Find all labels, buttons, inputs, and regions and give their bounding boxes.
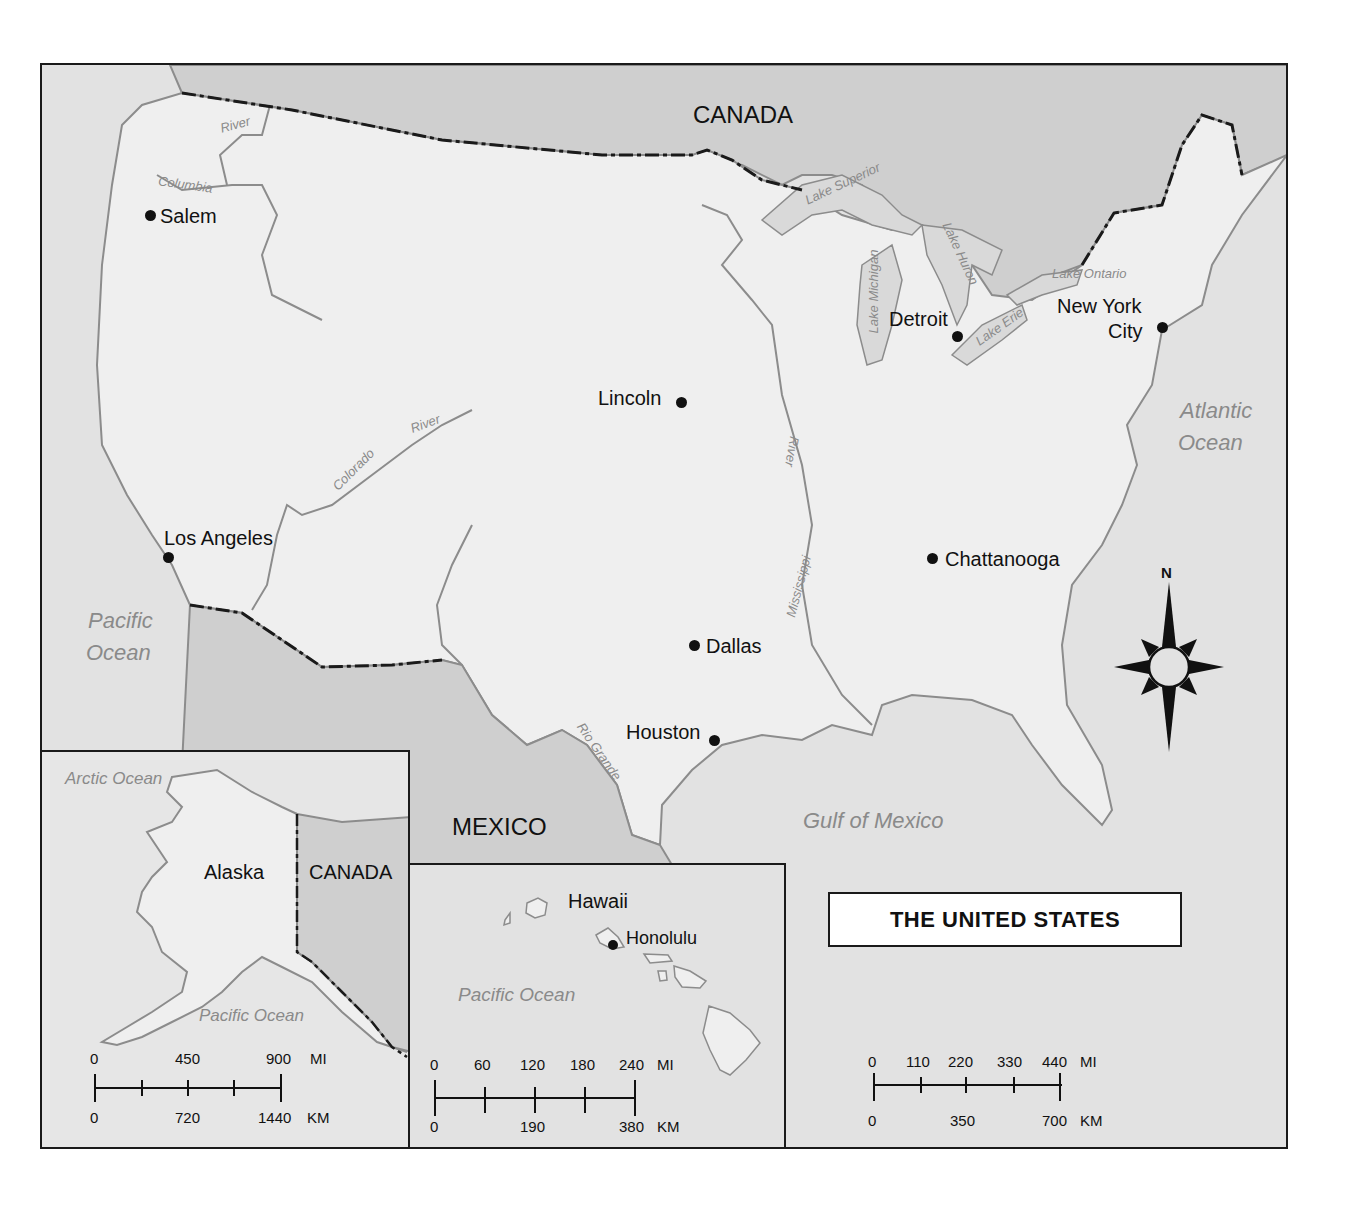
hawaii-scale-km-unit: KM: [657, 1118, 680, 1135]
main-scale-km-1: 350: [950, 1112, 975, 1129]
main-scale-bar: [874, 1073, 1062, 1101]
city-dot-chattanooga: [927, 553, 938, 564]
city-dot-dallas: [689, 640, 700, 651]
map-title: THE UNITED STATES: [828, 892, 1182, 947]
main-scale-km-unit: KM: [1080, 1112, 1103, 1129]
alaska-scale-km-2: 1440: [258, 1109, 291, 1126]
hawaii-scale-mi-0: 0: [430, 1056, 438, 1073]
main-scale-mi-unit: MI: [1080, 1053, 1097, 1070]
city-new-york-line1: New York: [1057, 296, 1142, 316]
city-houston: Houston: [626, 722, 701, 742]
city-detroit: Detroit: [889, 309, 948, 329]
hawaii-kauai: [526, 898, 547, 918]
hawaii-scale-mi-1: 60: [474, 1056, 491, 1073]
hawaii-scale-km-1: 190: [520, 1118, 545, 1135]
alaska-scale-mi-2: 900: [266, 1050, 291, 1067]
label-mexico: MEXICO: [452, 815, 547, 839]
city-los-angeles: Los Angeles: [164, 528, 273, 548]
label-arctic-ocean: Arctic Ocean: [65, 770, 162, 787]
city-dot-new-york-city: [1157, 322, 1168, 333]
alaska-scale-mi-1: 450: [175, 1050, 200, 1067]
label-alaska: Alaska: [204, 862, 264, 882]
alaska-scale-mi-0: 0: [90, 1050, 98, 1067]
hawaii-maui: [674, 966, 706, 988]
hawaii-scale-mi-3: 180: [570, 1056, 595, 1073]
compass-rose: [1114, 582, 1224, 752]
main-scale-mi-3: 330: [997, 1053, 1022, 1070]
compass-north-label: N: [1161, 565, 1172, 580]
label-atlantic-1: Atlantic: [1180, 400, 1252, 422]
label-pacific-2: Ocean: [86, 642, 151, 664]
main-scale-mi-2: 220: [948, 1053, 973, 1070]
map-frame: CANADA MEXICO Pacific Ocean Atlantic Oce…: [40, 63, 1288, 1149]
alaska-inset: Arctic Ocean Alaska CANADA Pacific Ocean…: [40, 750, 410, 1149]
label-lake-michigan: Lake Michigan: [867, 250, 880, 334]
city-dot-honolulu: [608, 940, 618, 950]
alaska-scale-km-unit: KM: [307, 1109, 330, 1126]
city-dallas: Dallas: [706, 636, 762, 656]
label-lake-ontario: Lake Ontario: [1052, 267, 1126, 280]
city-honolulu: Honolulu: [626, 929, 697, 947]
hawaii-molokai: [644, 954, 672, 963]
hawaii-big-island: [703, 1006, 760, 1075]
alaska-scale-km-0: 0: [90, 1109, 98, 1126]
city-dot-lincoln: [676, 397, 687, 408]
label-atlantic-2: Ocean: [1178, 432, 1243, 454]
city-chattanooga: Chattanooga: [945, 549, 1060, 569]
label-alaska-canada: CANADA: [309, 862, 392, 882]
city-dot-houston: [709, 735, 720, 746]
city-dot-detroit: [952, 331, 963, 342]
city-new-york-line2: City: [1108, 321, 1142, 341]
label-hawaii-pacific-ocean: Pacific Ocean: [458, 985, 575, 1004]
hawaii-inset: Hawaii Honolulu Pacific Ocean 0 60 120 1…: [408, 863, 786, 1149]
label-pacific-1: Pacific: [88, 610, 153, 632]
label-canada: CANADA: [693, 103, 793, 127]
main-scale-mi-0: 0: [868, 1053, 876, 1070]
city-dot-los-angeles: [163, 552, 174, 563]
hawaii-lanai: [658, 971, 667, 981]
alaska-scale-km-1: 720: [175, 1109, 200, 1126]
city-dot-salem: [145, 210, 156, 221]
hawaii-scale-mi-unit: MI: [657, 1056, 674, 1073]
hawaii-scale-km-2: 380: [619, 1118, 644, 1135]
city-salem: Salem: [160, 206, 217, 226]
hawaii-niihau: [504, 913, 510, 925]
hawaii-scale-mi-2: 120: [520, 1056, 545, 1073]
label-alaska-pacific-ocean: Pacific Ocean: [199, 1007, 304, 1024]
main-scale-km-0: 0: [868, 1112, 876, 1129]
main-scale-mi-4: 440: [1042, 1053, 1067, 1070]
main-scale-km-2: 700: [1042, 1112, 1067, 1129]
hawaii-scale-km-0: 0: [430, 1118, 438, 1135]
label-gulf-of-mexico: Gulf of Mexico: [803, 810, 944, 832]
hawaii-scale-mi-4: 240: [619, 1056, 644, 1073]
alaska-scale-mi-unit: MI: [310, 1050, 327, 1067]
city-lincoln: Lincoln: [598, 388, 661, 408]
main-scale-mi-1: 110: [906, 1053, 930, 1070]
label-hawaii: Hawaii: [568, 891, 628, 911]
